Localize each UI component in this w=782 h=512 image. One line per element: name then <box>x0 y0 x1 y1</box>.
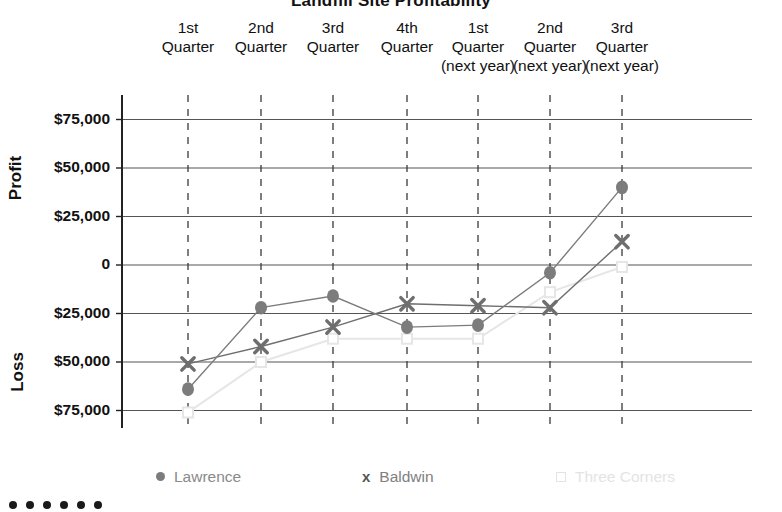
series-line-lawrence <box>188 187 622 389</box>
datapoint-lawrence-1 <box>182 382 194 396</box>
chart-canvas: Landfill Site Profitability 1stQuarter2n… <box>0 0 782 512</box>
legend-label: Three Corners <box>575 469 675 485</box>
plot-area <box>0 0 782 512</box>
footer-bullet-row <box>9 501 102 509</box>
datapoint-lawrence-3 <box>327 289 339 303</box>
datapoint-three-corners-4 <box>402 334 412 344</box>
datapoint-lawrence-6 <box>544 266 556 280</box>
datapoint-three-corners-6 <box>545 287 555 297</box>
legend-label: Lawrence <box>174 469 241 485</box>
square-marker <box>556 472 566 482</box>
datapoint-three-corners-7 <box>617 262 627 272</box>
legend-label: Baldwin <box>379 469 433 485</box>
circle-marker <box>156 472 165 481</box>
footer-bullet <box>77 501 85 509</box>
footer-bullet <box>60 501 68 509</box>
datapoint-three-corners-3 <box>328 334 338 344</box>
datapoint-lawrence-7 <box>616 181 628 195</box>
series-three-corners <box>183 262 627 418</box>
legend-item-lawrence[interactable]: Lawrence <box>156 469 241 485</box>
datapoint-three-corners-5 <box>473 334 483 344</box>
datapoint-lawrence-5 <box>472 318 484 332</box>
datapoint-three-corners-2 <box>256 357 266 367</box>
legend-item-three-corners[interactable]: Three Corners <box>556 469 675 485</box>
datapoint-lawrence-4 <box>401 320 413 334</box>
footer-bullet <box>26 501 34 509</box>
datapoint-three-corners-1 <box>183 407 193 417</box>
x-marker: x <box>362 469 370 484</box>
footer-bullet <box>43 501 51 509</box>
series-baldwin <box>182 236 628 371</box>
footer-bullet <box>94 501 102 509</box>
legend-item-baldwin[interactable]: xBaldwin <box>362 469 434 485</box>
footer-bullet <box>9 501 17 509</box>
datapoint-lawrence-2 <box>255 301 267 315</box>
